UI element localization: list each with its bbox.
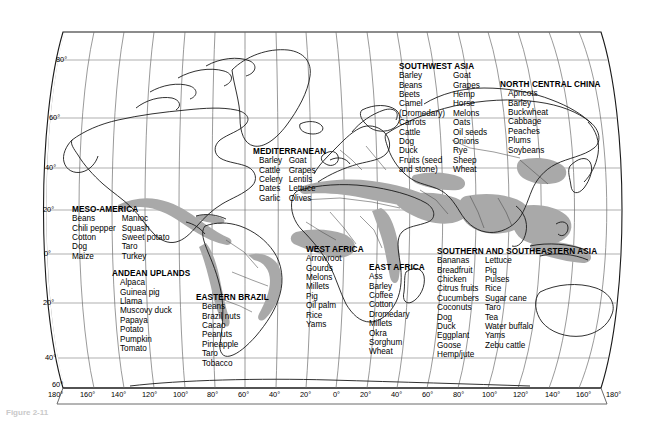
crop-item: Muscovy duck [120, 306, 172, 315]
crop-item: Fruits (seed [399, 156, 445, 165]
hearth-label-meso-america: MESO-AMERICA Beans Chili pepper Cotton D… [72, 205, 170, 261]
crop-item: Yams [485, 331, 533, 340]
lon-label-20e: 20° [360, 390, 371, 399]
lon-label-80w: 80° [207, 390, 218, 399]
crop-item: Barley [259, 156, 283, 165]
crop-item: Papaya [120, 316, 172, 325]
crop-item: Rye [453, 146, 487, 155]
crop-item: Goat [453, 71, 487, 80]
hearth-column-0: Ass Barley Coffee Cotton Dromedary Mille… [369, 272, 410, 357]
crop-item: Melons [306, 273, 348, 282]
crop-item: Rice [485, 284, 533, 293]
crop-item: Pumpkin [120, 335, 172, 344]
crop-item: Taro [202, 349, 242, 358]
crop-item: Pineapple [202, 340, 242, 349]
crop-item: Plums [508, 136, 562, 145]
hearth-title: NORTH CENTRAL CHINA [500, 80, 562, 89]
figure-world-agricultural-hearths: 80° 60° 40° 20° 0° 20° 40° 60° 180° 160°… [0, 0, 663, 424]
lat-label-20n: 20° [43, 205, 54, 214]
lat-label-60s: 60° [52, 380, 63, 389]
lon-label-160w: 160° [80, 390, 95, 399]
crop-item: Wheat [453, 165, 487, 174]
crop-item: Sheep [453, 156, 487, 165]
crop-item: Peanuts [202, 330, 242, 339]
crop-item: Hemp [453, 90, 487, 99]
crop-item: Millets [306, 282, 348, 291]
crop-item: Barley [369, 282, 410, 291]
crop-item: Beans [72, 214, 116, 223]
crop-item: Barley [399, 71, 445, 80]
crop-item: Chicken [437, 275, 479, 284]
crop-item: Squash [122, 224, 170, 233]
crop-item: Goose [437, 341, 479, 350]
crop-item: Cacao [202, 321, 242, 330]
crop-item: (Dromedary) [399, 109, 445, 118]
crop-item: Coconuts [437, 303, 479, 312]
lon-label-60e: 60° [422, 390, 433, 399]
crop-item: Camel [399, 99, 445, 108]
crop-item: Beans [202, 302, 242, 311]
hearth-title: SOUTHERN AND SOUTHEASTERN ASIA [437, 247, 555, 256]
hearth-label-andean-uplands: ANDEAN UPLANDS Alpaca Guinea pig Llama M… [112, 269, 172, 353]
crop-item: Potato [120, 325, 172, 334]
crop-item: Tea [485, 313, 533, 322]
crop-item: Wheat [369, 347, 410, 356]
lat-label-0: 0° [44, 249, 51, 258]
crop-item: Lettuce [289, 184, 316, 193]
crop-item: Millets [369, 319, 410, 328]
crop-item: Zebu cattle [485, 341, 533, 350]
hearth-title: SOUTHWEST ASIA [399, 62, 487, 71]
hearth-column-0: Arrowroot Gourds Melons Millets Pig Oil … [306, 254, 348, 329]
hearth-column-1: Goat Grapes Lentils Lettuce Olives [289, 156, 316, 203]
hearth-title: WEST AFRICA [306, 245, 348, 254]
crop-item: Duck [437, 322, 479, 331]
crop-item: Beets [399, 90, 445, 99]
crop-item: Cotton [369, 300, 410, 309]
crop-item: Breadfruit [437, 266, 479, 275]
hearth-title: EASTERN BRAZIL [196, 293, 242, 302]
lon-label-180e: 180° [606, 390, 621, 399]
crop-item: Coffee [369, 291, 410, 300]
crop-item: Dog [399, 137, 445, 146]
crop-item: Garlic [259, 194, 283, 203]
crop-item: Sorghum [369, 338, 410, 347]
crop-item: Dog [437, 313, 479, 322]
lon-label-60w: 60° [238, 390, 249, 399]
hearth-column-0: Bananas Breadfruit Chicken Citrus fruits… [437, 256, 479, 359]
lon-label-140e: 140° [545, 390, 560, 399]
hearth-column-1: Manioc Squash Sweet potato Taro Turkey [122, 214, 170, 261]
lon-label-20w: 20° [300, 390, 311, 399]
crop-item: Taro [485, 303, 533, 312]
crop-item: Oil seeds [453, 128, 487, 137]
crop-item: Rice [306, 311, 348, 320]
crop-item: Pulses [485, 275, 533, 284]
crop-item: Buckwheat [508, 108, 562, 117]
crop-item: Dog [72, 242, 116, 251]
crop-item: Gourds [306, 264, 348, 273]
lon-label-40w: 40° [269, 390, 280, 399]
crop-item: Llama [120, 297, 172, 306]
crop-item: Sweet potato [122, 233, 170, 242]
hearth-title: EAST AFRICA [369, 263, 409, 272]
lon-label-100w: 100° [173, 390, 188, 399]
crop-item: Eggplant [437, 331, 479, 340]
crop-item: Chili pepper [72, 224, 116, 233]
hearth-label-southern-southeastern-asia: SOUTHERN AND SOUTHEASTERN ASIA Bananas B… [437, 247, 557, 360]
hearth-label-southwest-asia: SOUTHWEST ASIA Barley Beans Beets Camel … [399, 62, 487, 175]
crop-item: Barley [508, 99, 562, 108]
lon-label-160e: 160° [576, 390, 591, 399]
lon-label-80e: 80° [453, 390, 464, 399]
crop-item: Grapes [289, 166, 316, 175]
hearth-label-west-africa: WEST AFRICA Arrowroot Gourds Melons Mill… [306, 245, 348, 329]
crop-item: Okra [369, 329, 410, 338]
crop-item: Cabbage [508, 117, 562, 126]
hearth-column-0: Barley Beans Beets Camel (Dromedary) Car… [399, 71, 445, 174]
lat-label-20s: 20° [43, 298, 54, 307]
crop-item: Dromedary [369, 310, 410, 319]
lon-label-120e: 120° [513, 390, 528, 399]
crop-item: Olives [289, 194, 316, 203]
crop-item: Pig [485, 266, 533, 275]
crop-item: Grapes [453, 81, 487, 90]
lat-label-40s: 40° [45, 353, 56, 362]
crop-item: and stone) [399, 165, 445, 174]
